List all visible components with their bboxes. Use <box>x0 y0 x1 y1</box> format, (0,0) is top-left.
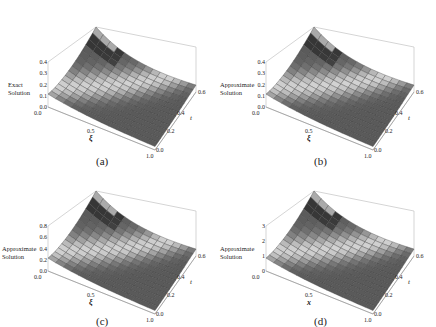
x-axis-label: x <box>307 298 311 307</box>
x-tick-label: 1.0 <box>146 317 154 323</box>
z-tick-label: 0.1 <box>255 93 265 99</box>
t-tick-label: 0.0 <box>374 311 382 317</box>
surface-plot-d: Approximate Solution32100.00.51.0x0.00.2… <box>218 164 436 327</box>
surface-plot-c: Approximate Solution0.80.60.40.20.00.00.… <box>0 164 218 327</box>
z-tick-label: 0.2 <box>37 257 47 263</box>
z-tick-label: 3 <box>255 223 265 229</box>
z-tick-label: 0.6 <box>37 234 47 240</box>
t-tick-label: 0.6 <box>198 253 206 259</box>
t-tick-label: 0.6 <box>416 253 424 259</box>
x-axis-label: ξ <box>89 134 93 143</box>
z-tick-label: 0.2 <box>37 82 47 88</box>
panel-caption: (c) <box>96 315 108 327</box>
x-axis-label: ξ <box>89 298 93 307</box>
x-tick-label: 0.0 <box>34 110 42 116</box>
t-tick-label: 0.2 <box>167 128 175 134</box>
t-tick-label: 0.6 <box>198 89 206 95</box>
z-tick-label: 2 <box>255 238 265 244</box>
x-axis-label: ξ <box>307 134 311 143</box>
x-tick-label: 1.0 <box>146 153 154 159</box>
z-tick-label: 1 <box>255 253 265 259</box>
panel-caption: (d) <box>314 315 327 327</box>
z-tick-label: 0.4 <box>255 59 265 65</box>
x-tick-label: 0.0 <box>252 274 260 280</box>
t-tick-label: 0.2 <box>167 292 175 298</box>
t-tick-label: 0.4 <box>177 110 185 116</box>
t-axis-label: t <box>408 278 410 286</box>
z-tick-label: 0.4 <box>37 246 47 252</box>
z-tick-label: 0.2 <box>255 82 265 88</box>
t-tick-label: 0.4 <box>395 110 403 116</box>
t-axis-label: t <box>190 278 192 286</box>
t-tick-label: 0.0 <box>374 147 382 153</box>
t-tick-label: 0.0 <box>156 147 164 153</box>
surface-plot-b: Approximate Solution0.40.30.20.10.00.00.… <box>218 0 436 163</box>
z-tick-label: 0.1 <box>37 93 47 99</box>
z-tick-label: 0.8 <box>37 223 47 229</box>
t-tick-label: 0.2 <box>385 292 393 298</box>
x-tick-label: 0.0 <box>252 110 260 116</box>
t-tick-label: 0.4 <box>177 274 185 280</box>
x-tick-label: 1.0 <box>364 153 372 159</box>
t-tick-label: 0.4 <box>395 274 403 280</box>
t-axis-label: t <box>190 114 192 122</box>
t-tick-label: 0.2 <box>385 128 393 134</box>
x-tick-label: 1.0 <box>364 317 372 323</box>
surface-plot-a: Exact Solution0.40.30.20.10.00.00.51.0ξ0… <box>0 0 218 163</box>
t-tick-label: 0.0 <box>156 311 164 317</box>
x-tick-label: 0.0 <box>34 274 42 280</box>
z-tick-label: 0.4 <box>37 59 47 65</box>
z-tick-label: 0.3 <box>37 70 47 76</box>
t-axis-label: t <box>408 114 410 122</box>
z-tick-label: 0.3 <box>255 70 265 76</box>
t-tick-label: 0.6 <box>416 89 424 95</box>
